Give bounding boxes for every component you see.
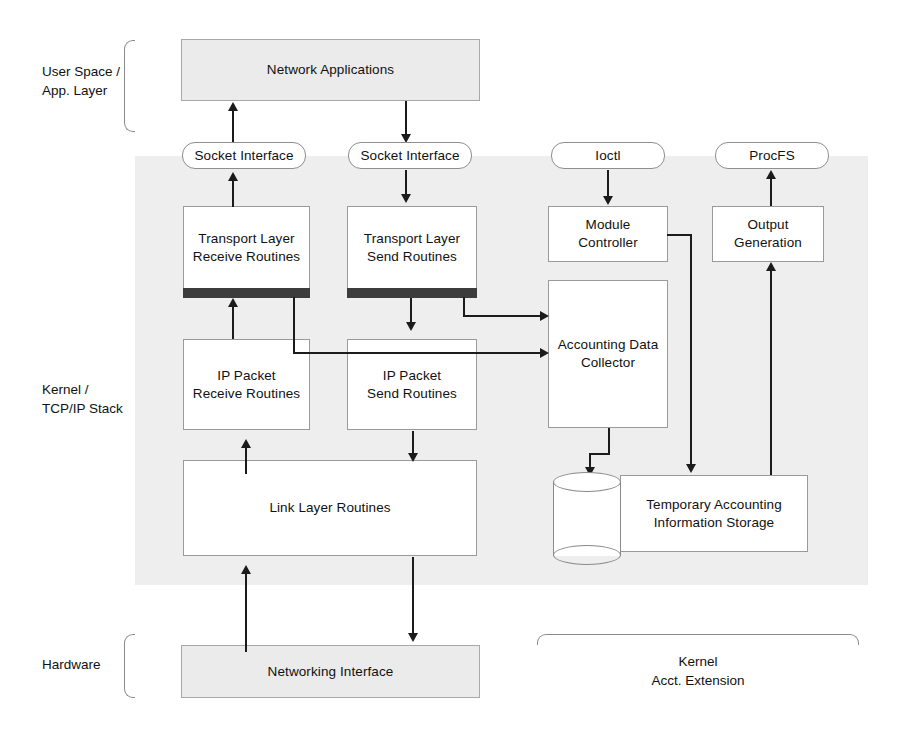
edge-transport-recv-to-socket [232,180,234,207]
networking-interface-label: Networking Interface [268,663,394,681]
temporary-storage-label: Temporary Accounting Information Storage [646,496,782,532]
procfs-label: ProcFS [749,148,795,163]
transport-layer-receive-box: Transport Layer Receive Routines [183,206,310,289]
socket-interface-right-pill: Socket Interface [348,142,472,169]
architecture-diagram: User Space / App. Layer Kernel / TCP/IP … [0,0,910,729]
edge-module-controller-drop [690,234,692,468]
output-generation-label: Output Generation [734,216,802,252]
edge-collector-drop-a [608,428,610,454]
accounting-data-collector-box: Accounting Data Collector [548,280,668,428]
socket-interface-left-pill: Socket Interface [182,142,306,169]
arrowhead-ip-send-to-link [408,453,418,462]
edge-module-controller-exit [667,234,691,236]
kernel-acct-extension-brace [537,634,859,645]
networking-interface-box: Networking Interface [181,645,480,698]
ioctl-pill: Ioctl [551,142,665,169]
arrowhead-link-to-nic [408,633,418,642]
ip-packet-send-label: IP Packet Send Routines [367,367,457,403]
socket-interface-right-label: Socket Interface [360,148,459,163]
arrowhead-recv-hook-to-collector [540,348,549,358]
arrowhead-socket-to-transport-send [401,194,411,203]
temporary-storage-box: Temporary Accounting Information Storage [620,475,808,552]
transport-layer-receive-label: Transport Layer Receive Routines [193,230,300,266]
user-space-brace [124,40,135,132]
output-generation-box: Output Generation [712,206,824,262]
layer-label-kernel: Kernel / TCP/IP Stack [42,380,142,418]
accounting-data-collector-label: Accounting Data Collector [558,336,659,372]
edge-ioctl-to-module-controller [607,170,609,199]
arrowhead-ip-recv-to-transport-recv [228,298,238,307]
edge-socket-left-to-apps [232,110,234,146]
network-applications-label: Network Applications [267,61,394,79]
transport-receive-hook-bar [183,288,310,298]
transport-layer-send-label: Transport Layer Send Routines [364,230,460,266]
arrowhead-ioctl-to-module-controller [603,196,613,205]
link-layer-routines-box: Link Layer Routines [183,460,477,556]
edge-apps-to-socket-right [405,101,407,137]
layer-label-kernel-acct-extension: Kernel Acct. Extension [537,652,859,690]
edge-collector-jog [589,453,610,455]
arrowhead-transport-send-to-ip-send [406,322,416,331]
procfs-pill: ProcFS [715,142,829,169]
edge-link-to-nic [412,557,414,637]
arrowhead-module-controller-to-storage [686,464,696,473]
module-controller-label: Module Controller [578,216,638,252]
arrowhead-transport-recv-to-socket [228,172,238,181]
edge-socket-to-transport-send [405,170,407,197]
edge-storage-to-output [770,270,772,475]
hardware-brace [124,634,135,698]
edge-link-to-ip-recv [245,447,247,474]
ip-packet-receive-label: IP Packet Receive Routines [193,367,300,403]
edge-recv-hook-drop [293,297,295,353]
ip-packet-receive-box: IP Packet Receive Routines [183,339,310,430]
storage-cylinder-icon [553,472,621,565]
link-layer-routines-label: Link Layer Routines [269,499,390,517]
layer-label-user-space: User Space / App. Layer [42,62,137,100]
edge-send-hook-to-collector [463,315,543,317]
socket-interface-left-label: Socket Interface [194,148,293,163]
arrowhead-output-to-procfs [766,170,776,179]
arrowhead-storage-to-output [766,262,776,271]
arrowhead-send-hook-to-collector [540,311,549,321]
arrowhead-nic-to-link [241,565,251,574]
arrowhead-socket-left-to-apps [228,102,238,111]
edge-output-to-procfs [770,178,772,206]
transport-layer-send-box: Transport Layer Send Routines [347,206,477,289]
ioctl-label: Ioctl [595,148,620,163]
module-controller-box: Module Controller [548,206,668,262]
layer-label-hardware: Hardware [42,655,137,674]
arrowhead-link-to-ip-recv [241,439,251,448]
edge-ip-recv-to-transport-recv [232,306,234,339]
network-applications-box: Network Applications [181,39,480,101]
transport-send-hook-bar [347,288,477,298]
edge-nic-to-link [245,573,247,652]
edge-recv-hook-to-collector [293,352,543,354]
edge-send-hook-drop [463,297,465,316]
